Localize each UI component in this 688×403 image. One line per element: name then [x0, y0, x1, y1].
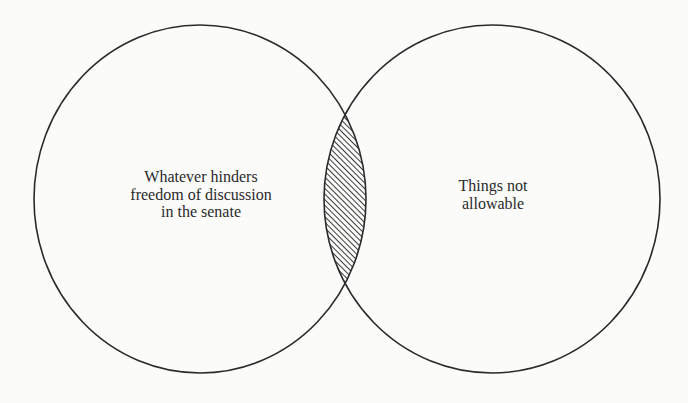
left-set-label: Whatever hinders freedom of discussion i… — [130, 168, 271, 221]
left-label-line-2: freedom of discussion — [130, 186, 271, 204]
venn-diagram: Whatever hinders freedom of discussion i… — [0, 0, 688, 403]
right-label-line-1: Things not — [459, 177, 528, 195]
left-label-line-3: in the senate — [130, 203, 271, 221]
left-label-line-1: Whatever hinders — [130, 168, 271, 186]
right-label-line-2: allowable — [459, 195, 528, 213]
venn-graphic — [0, 0, 688, 403]
right-set-label: Things not allowable — [459, 177, 528, 212]
